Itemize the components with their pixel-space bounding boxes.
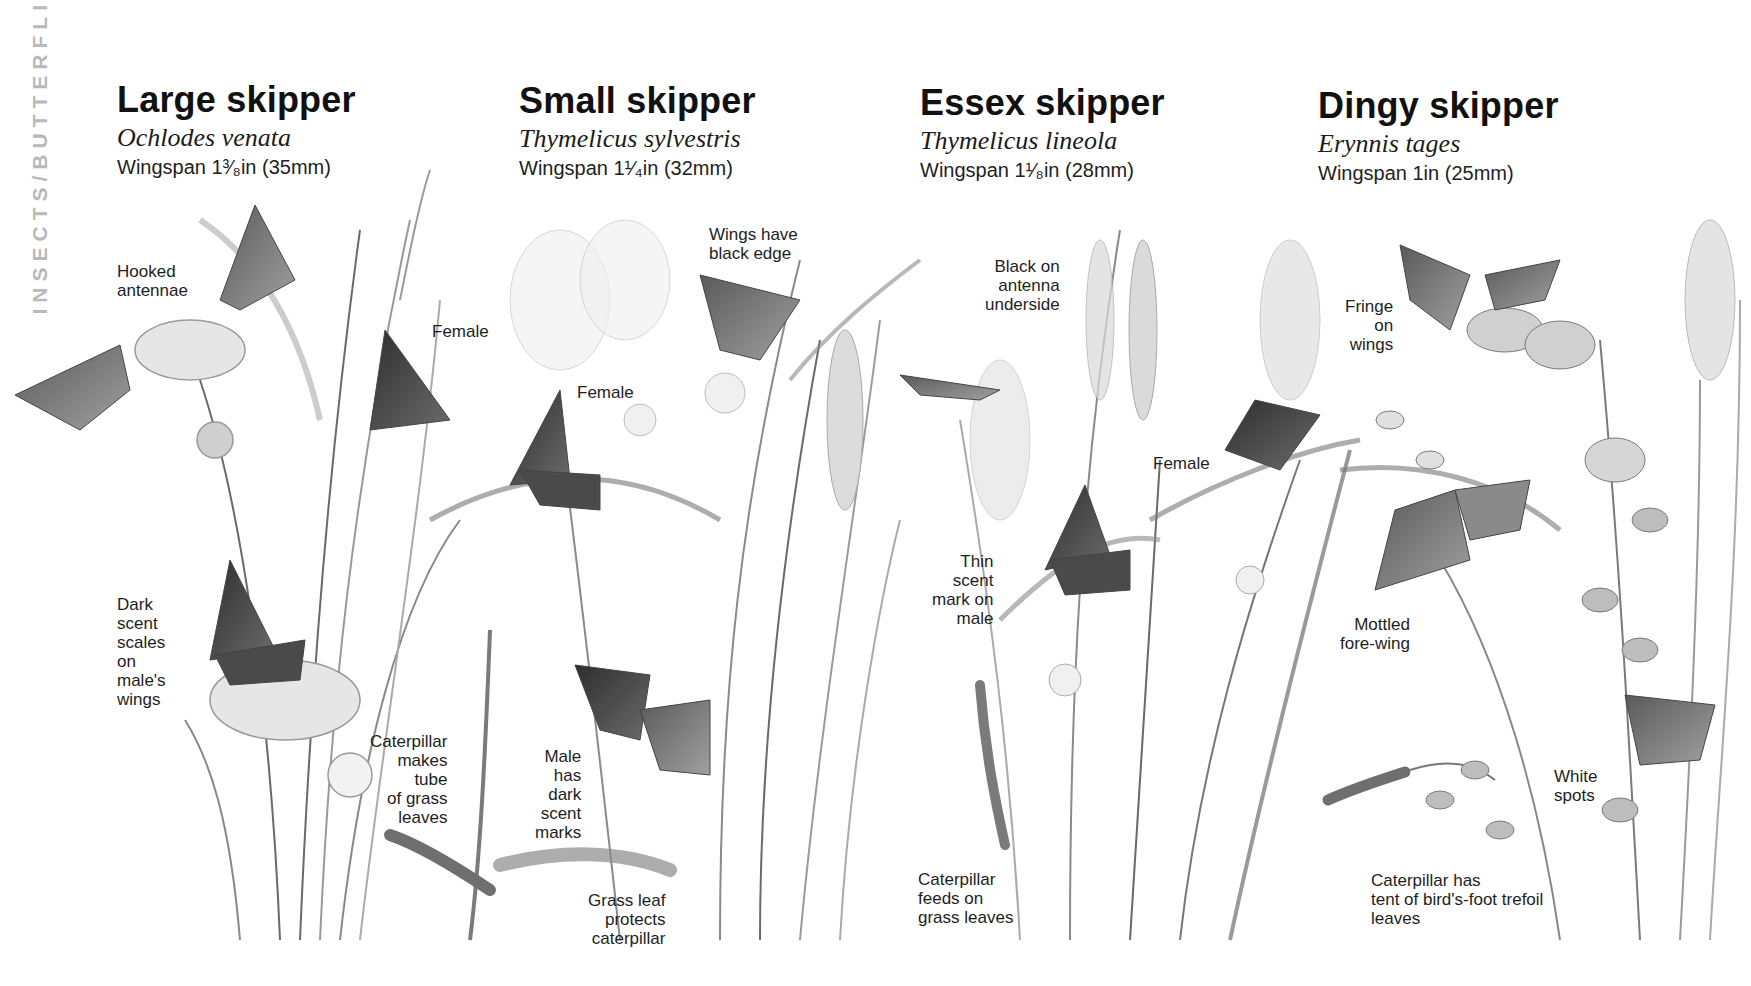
species-header-small-skipper: Small skipper Thymelicus sylvestris Wing… bbox=[519, 81, 756, 181]
annotation-caterpillar-tent: Caterpillar has tent of bird's-foot tref… bbox=[1371, 871, 1543, 928]
annotation-grass-leaf-protects: Grass leaf protects caterpillar bbox=[588, 891, 665, 948]
species-common-name: Dingy skipper bbox=[1318, 86, 1559, 126]
annotation-female: Female bbox=[1153, 454, 1210, 473]
flower-head-icon bbox=[135, 320, 245, 380]
annotation-wings-black-edge: Wings have black edge bbox=[709, 225, 798, 263]
annotation-caterpillar-feeds: Caterpillar feeds on grass leaves bbox=[918, 870, 1013, 927]
annotation-dark-scent-scales: Dark scent scales on male's wings bbox=[117, 595, 166, 709]
species-wingspan: Wingspan 1¹⁄₄in (32mm) bbox=[519, 155, 756, 181]
species-wingspan: Wingspan 1¹⁄₈in (28mm) bbox=[920, 157, 1165, 183]
annotation-black-antenna-underside: Black on antenna underside bbox=[985, 257, 1060, 314]
species-common-name: Essex skipper bbox=[920, 83, 1165, 123]
species-latin-name: Ochlodes venata bbox=[117, 122, 356, 154]
caterpillar-icon bbox=[390, 835, 490, 890]
annotation-female: Female bbox=[432, 322, 489, 341]
annotation-caterpillar-tube: Caterpillar makes tube of grass leaves bbox=[370, 732, 447, 827]
annotation-mottled-fore-wing: Mottled fore-wing bbox=[1340, 615, 1410, 653]
species-wingspan: Wingspan 1³⁄₈in (35mm) bbox=[117, 154, 356, 180]
species-header-large-skipper: Large skipper Ochlodes venata Wingspan 1… bbox=[117, 80, 356, 180]
annotation-white-spots: White spots bbox=[1554, 767, 1597, 805]
species-header-essex-skipper: Essex skipper Thymelicus lineola Wingspa… bbox=[920, 83, 1165, 183]
species-common-name: Large skipper bbox=[117, 80, 356, 120]
caterpillar-icon bbox=[1328, 772, 1405, 800]
species-common-name: Small skipper bbox=[519, 81, 756, 121]
annotation-thin-scent-mark: Thin scent mark on male bbox=[932, 552, 993, 628]
species-header-dingy-skipper: Dingy skipper Erynnis tages Wingspan 1in… bbox=[1318, 86, 1559, 186]
species-wingspan: Wingspan 1in (25mm) bbox=[1318, 160, 1559, 186]
annotation-female: Female bbox=[577, 383, 634, 402]
species-latin-name: Thymelicus lineola bbox=[920, 125, 1165, 157]
annotation-hooked-antennae: Hooked antennae bbox=[117, 262, 188, 300]
species-latin-name: Thymelicus sylvestris bbox=[519, 123, 756, 155]
caterpillar-icon bbox=[500, 854, 670, 870]
annotation-fringe-on-wings: Fringe on wings bbox=[1345, 297, 1393, 354]
annotation-male-scent-marks: Male has dark scent marks bbox=[535, 747, 581, 842]
species-latin-name: Erynnis tages bbox=[1318, 128, 1559, 160]
